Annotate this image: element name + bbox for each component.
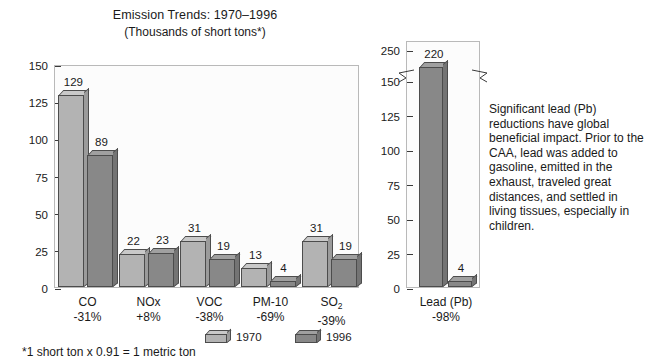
x-axis-label-PM-10: PM-10-69% <box>253 287 288 325</box>
legend-label-1970: 1970 <box>232 331 262 343</box>
lead-y-axis-tick-0: 0 <box>394 283 407 295</box>
bar-group-SO2: 3119 <box>300 66 360 287</box>
x-axis-category-change: -31% <box>73 310 101 325</box>
bar-front-face <box>241 268 267 287</box>
y-axis-tick-50: 50 <box>35 209 55 221</box>
y-axis-tick-75: 75 <box>35 172 55 184</box>
x-axis-label-SO2: SO2-39% <box>317 287 345 329</box>
x-axis-category-name: SO2 <box>320 295 342 309</box>
bar-value-PM-10-1996: 4 <box>280 262 286 274</box>
bar-front-face <box>58 95 84 287</box>
y-axis-tick-0: 0 <box>42 283 55 295</box>
lead-y-axis-tick-mark <box>407 51 413 52</box>
bar-side-face <box>357 252 362 287</box>
x-axis-category-change: -38% <box>195 310 223 325</box>
x-axis-label-CO: CO-31% <box>73 287 101 325</box>
x-axis-category-name: VOC <box>196 295 222 309</box>
bar-front-face <box>87 155 113 287</box>
lead-y-axis-tick-50: 50 <box>387 214 407 226</box>
lead-y-axis-tick-mark <box>407 220 413 221</box>
y-axis-tick-125: 125 <box>29 97 55 109</box>
legend-item-1970: 1970 <box>205 330 262 343</box>
bar-group-PM-10: 134 <box>239 66 299 287</box>
y-axis-tick-mark <box>55 289 61 290</box>
lead-inset-plot-area: 02550751001251502502204Lead (Pb)-98% <box>406 41 480 288</box>
lead-y-axis-tick-mark <box>407 151 413 152</box>
bar-value-VOC-1970: 31 <box>188 222 201 234</box>
lead-y-axis-tick-125: 125 <box>381 111 407 123</box>
bar-NOx-1970: 22 <box>119 249 145 287</box>
bar-front-face <box>148 253 174 287</box>
bar-front-face <box>119 254 145 287</box>
legend-swatch-1970 <box>205 330 227 343</box>
bar-front-face <box>209 259 235 287</box>
bar-VOC-1996: 19 <box>209 254 235 287</box>
bar-value-NOx-1996: 23 <box>156 234 169 246</box>
lead-annotation-text: Significant lead (Pb) reductions have gl… <box>489 102 647 233</box>
x-axis-category-change: -69% <box>253 310 288 325</box>
lead-y-axis-tick-mark <box>407 289 413 290</box>
lead-y-axis-tick-mark <box>407 185 413 186</box>
bar-lead-1996: 4 <box>448 276 472 287</box>
lead-category-name: Lead (Pb) <box>420 295 473 309</box>
bar-value-PM-10-1970: 13 <box>249 249 262 261</box>
bar-SO2-1996: 19 <box>331 254 357 287</box>
bar-CO-1996: 89 <box>87 150 113 287</box>
bar-PM-10-1996: 4 <box>270 276 296 287</box>
lead-y-axis-tick-100: 100 <box>381 145 407 157</box>
footnote: *1 short ton x 0.91 = 1 metric ton <box>22 345 196 359</box>
x-axis-label-VOC: VOC-38% <box>195 287 223 325</box>
lead-x-axis-label: Lead (Pb)-98% <box>420 287 473 325</box>
legend-swatch-1996 <box>295 330 317 343</box>
bar-PM-10-1970: 13 <box>241 263 267 287</box>
lead-y-axis-tick-150: 150 <box>381 76 407 88</box>
bar-side-face <box>472 275 477 287</box>
x-axis-category-change: +8% <box>136 310 160 325</box>
bar-value-VOC-1996: 19 <box>217 240 230 252</box>
bar-NOx-1996: 23 <box>148 248 174 287</box>
y-axis-tick-100: 100 <box>29 134 55 146</box>
chart-subtitle: (Thousands of short tons*) <box>0 25 390 39</box>
bar-value-lead-1970: 220 <box>424 48 443 60</box>
x-axis-category-name: NOx <box>136 295 160 309</box>
lead-y-axis-tick-mark <box>407 82 413 83</box>
chart-title: Emission Trends: 1970–1996 <box>0 8 390 22</box>
bar-CO-1970: 129 <box>58 90 84 287</box>
x-axis-category-change: -39% <box>317 314 345 329</box>
x-axis-category-name: PM-10 <box>253 295 288 309</box>
bar-VOC-1970: 31 <box>180 236 206 287</box>
bar-front-face <box>302 241 328 287</box>
legend-item-1996: 1996 <box>295 330 352 343</box>
lead-category-change: -98% <box>420 310 473 325</box>
bar-front-face <box>180 241 206 287</box>
x-axis-label-NOx: NOx+8% <box>136 287 160 325</box>
y-axis-tick-25: 25 <box>35 246 55 258</box>
bar-group-CO: 12989 <box>56 66 116 287</box>
lead-y-axis-tick-25: 25 <box>387 249 407 261</box>
lead-y-axis-tick-75: 75 <box>387 180 407 192</box>
lead-y-axis-tick-mark <box>407 254 413 255</box>
bar-front-face <box>331 259 357 287</box>
bar-front-face <box>419 67 443 287</box>
bar-SO2-1970: 31 <box>302 236 328 287</box>
x-axis-category-name: CO <box>78 295 96 309</box>
bar-value-CO-1996: 89 <box>95 136 108 148</box>
bar-value-SO2-1970: 31 <box>310 222 323 234</box>
legend-label-1996: 1996 <box>322 331 352 343</box>
lead-y-axis-tick-mark <box>407 116 413 117</box>
legend: 1970 1996 <box>205 330 385 352</box>
bar-value-NOx-1970: 22 <box>127 235 140 247</box>
bar-value-SO2-1996: 19 <box>339 240 352 252</box>
bar-group-NOx: 2223 <box>117 66 177 287</box>
bar-group-lead: 2204 <box>417 42 477 287</box>
bar-group-VOC: 3119 <box>178 66 238 287</box>
bar-value-lead-1996: 4 <box>458 262 464 274</box>
lead-y-axis-tick-250: 250 <box>381 45 407 57</box>
bar-value-CO-1970: 129 <box>64 76 83 88</box>
main-bar-chart-plot-area: 025507510012515012989CO-31%2223NOx+8%311… <box>54 65 359 288</box>
bar-lead-1970: 220 <box>419 62 443 287</box>
bar-side-face <box>443 60 448 287</box>
y-axis-tick-150: 150 <box>29 60 55 72</box>
